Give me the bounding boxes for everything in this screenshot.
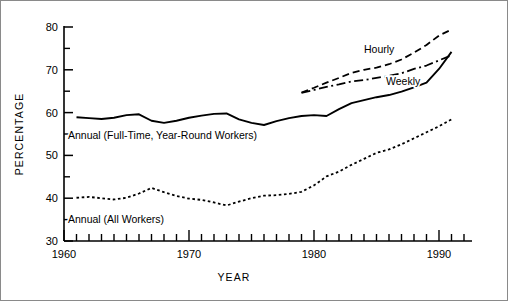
x-tick-label: 1960 [52,248,76,260]
x-axis-tick-labels: 1960197019801990 [52,248,451,260]
x-axis-ticks [64,230,464,241]
x-tick-label: 1970 [177,248,201,260]
y-tick-label: 80 [46,21,58,33]
y-tick-label: 60 [46,107,58,119]
y-tick-label: 50 [46,149,58,161]
series-label-hourly: Hourly [364,43,395,55]
y-axis-title: PERCENTAGE [13,93,25,176]
line-chart: 304050607080 1960197019801990 PERCENTAGE… [1,1,509,302]
y-axis-tick-labels: 304050607080 [46,21,58,247]
y-tick-label: 30 [46,235,58,247]
chart-frame: 304050607080 1960197019801990 PERCENTAGE… [0,0,508,301]
x-axis-title: YEAR [218,271,251,283]
series-label-weekly: Weekly [386,75,421,87]
data-series-group [77,30,452,206]
series-label-annual-all: Annual (All Workers) [68,213,164,225]
x-tick-label: 1980 [302,248,326,260]
series-line [302,30,452,93]
series-line [302,55,452,93]
y-tick-label: 70 [46,64,58,76]
series-line [77,52,452,125]
y-tick-label: 40 [46,192,58,204]
series-label-annual-fulltime: Annual (Full-Time, Year-Round Workers) [68,129,257,141]
x-tick-label: 1990 [427,248,451,260]
